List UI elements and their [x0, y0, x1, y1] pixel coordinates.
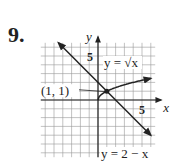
- y-tick-label: 5: [87, 50, 93, 64]
- graph: xy55(1, 1)y = √xy = 2 − x: [0, 0, 178, 163]
- x-axis-label: x: [162, 100, 169, 115]
- x-tick-label: 5: [139, 103, 145, 117]
- line-label: y = 2 − x: [101, 146, 149, 161]
- y-axis-label: y: [84, 29, 92, 44]
- intersection-label: (1, 1): [41, 83, 69, 98]
- sqrt-label: y = √x: [104, 55, 138, 70]
